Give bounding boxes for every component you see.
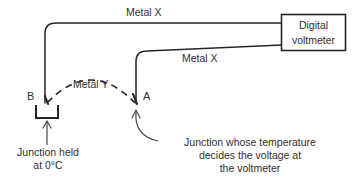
wire-metal-x-top: [45, 23, 282, 103]
label-metal-y: Metal Y: [73, 78, 108, 91]
caption-junction-b-line2: at 0°C: [0, 159, 96, 172]
caption-junction-a-line1: Junction whose temperature: [148, 136, 352, 149]
thermocouple-diagram: Metal X Metal X Metal Y B A Digital volt…: [0, 0, 353, 189]
label-junction-a: A: [143, 90, 150, 103]
caption-junction-b: Junction held at 0°C: [0, 146, 96, 172]
voltmeter-label-line1: Digital: [299, 18, 328, 32]
caption-junction-a-line3: the voltmeter: [148, 162, 352, 175]
caption-junction-a: Junction whose temperature decides the v…: [148, 136, 352, 174]
caption-junction-b-line1: Junction held: [0, 146, 96, 159]
label-metal-x-top: Metal X: [126, 6, 162, 19]
caption-junction-a-line2: decides the voltage at: [148, 149, 352, 162]
voltmeter-label: Digital voltmeter: [282, 15, 345, 50]
label-metal-x-bottom: Metal X: [182, 52, 218, 65]
ice-bath-bracket: [36, 105, 58, 118]
label-junction-b: B: [27, 90, 34, 103]
voltmeter-label-line2: voltmeter: [292, 33, 335, 47]
